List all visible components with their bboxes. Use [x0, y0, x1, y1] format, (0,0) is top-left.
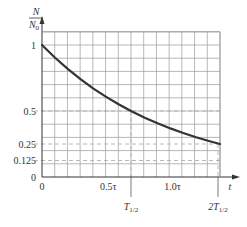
- x-tick-label: 0.5τ: [100, 181, 117, 192]
- x-axis-title: t: [229, 181, 232, 192]
- half-life-label: 2T1/2: [208, 201, 228, 214]
- dashed-reference-lines: [34, 111, 220, 177]
- y-axis-arrow-icon: [40, 16, 45, 24]
- y-tick-labels: 10.50.250.1250: [14, 40, 37, 183]
- x-tick-labels: 00.5τ1.0τ: [40, 181, 181, 192]
- y-axis-title-numerator: N: [32, 6, 41, 17]
- y-tick-label: 0.5: [24, 106, 37, 117]
- y-tick-label: 0.125: [14, 155, 37, 166]
- y-axis-title-denominator: N0: [28, 19, 40, 32]
- x-tick-label: 0: [40, 181, 45, 192]
- y-tick-label: 0: [31, 172, 36, 183]
- y-tick-label: 1: [31, 40, 36, 51]
- y-axis-title: N N0: [28, 6, 43, 32]
- y-tick-label: 0.25: [19, 139, 37, 150]
- half-life-label: T1/2: [124, 201, 139, 214]
- x-tick-label: 1.0τ: [164, 181, 181, 192]
- decay-chart: 10.50.250.1250 00.5τ1.0τ T1/22T1/2 N N0 …: [0, 0, 247, 227]
- x-axis-arrow-icon: [232, 175, 240, 180]
